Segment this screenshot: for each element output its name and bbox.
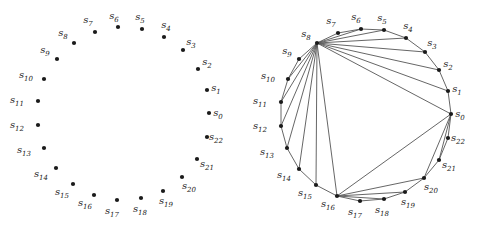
edge-s8-s13 bbox=[287, 43, 317, 148]
edge-s20-s21 bbox=[424, 160, 439, 178]
point-s4 bbox=[162, 35, 166, 39]
edge-s15-s16 bbox=[316, 185, 337, 196]
point-s8 bbox=[315, 41, 319, 45]
label-s8: s8 bbox=[301, 28, 311, 42]
edge-s7-s8 bbox=[317, 33, 338, 43]
label-s15: s15 bbox=[55, 186, 70, 200]
label-s14: s14 bbox=[277, 169, 291, 183]
point-s12 bbox=[279, 124, 283, 128]
point-s22 bbox=[446, 136, 450, 140]
edge-s8-s1 bbox=[317, 43, 448, 91]
point-s4 bbox=[404, 36, 408, 40]
edge-s5-s6 bbox=[361, 29, 384, 30]
point-s7 bbox=[93, 30, 97, 34]
point-s12 bbox=[36, 123, 40, 127]
label-s2: s2 bbox=[443, 58, 453, 72]
edge-s8-s0 bbox=[317, 43, 451, 114]
point-set-diagram: s0s1s2s3s4s5s6s7s8s9s10s11s12s13s14s15s1… bbox=[0, 0, 485, 229]
point-s2 bbox=[437, 68, 441, 72]
point-s16 bbox=[92, 193, 96, 197]
label-s1: s1 bbox=[452, 83, 462, 97]
point-s3 bbox=[181, 48, 185, 52]
point-s9 bbox=[297, 57, 301, 61]
label-s10: s10 bbox=[19, 69, 34, 83]
point-s5 bbox=[140, 27, 144, 31]
edge-s8-s2 bbox=[317, 43, 439, 70]
label-s19: s19 bbox=[401, 196, 416, 210]
point-s10 bbox=[286, 77, 290, 81]
point-s8 bbox=[72, 41, 76, 45]
figure-triangulation: s0s1s2s3s4s5s6s7s8s9s10s11s12s13s14s15s1… bbox=[253, 11, 466, 220]
label-s22: s22 bbox=[209, 131, 224, 145]
point-s13 bbox=[285, 146, 289, 150]
label-s6: s6 bbox=[109, 10, 119, 24]
edge-s3-s4 bbox=[406, 38, 425, 52]
point-s21 bbox=[437, 158, 441, 162]
label-s13: s13 bbox=[17, 144, 32, 158]
label-s15: s15 bbox=[298, 187, 313, 201]
label-s7: s7 bbox=[326, 15, 336, 29]
point-s18 bbox=[382, 197, 386, 201]
label-s6: s6 bbox=[351, 11, 361, 25]
point-s5 bbox=[382, 28, 386, 32]
point-s14 bbox=[54, 166, 58, 170]
point-s20 bbox=[180, 175, 184, 179]
label-s14: s14 bbox=[34, 168, 48, 182]
label-s11: s11 bbox=[10, 94, 24, 108]
edge-s0-s1 bbox=[448, 91, 451, 114]
edge-s12-s13 bbox=[281, 126, 287, 148]
label-s10: s10 bbox=[261, 70, 276, 84]
label-s16: s16 bbox=[78, 197, 93, 211]
point-s20 bbox=[422, 176, 426, 180]
edge-s14-s15 bbox=[299, 169, 316, 185]
label-s3: s3 bbox=[186, 36, 196, 50]
point-s16 bbox=[335, 194, 339, 198]
label-s20: s20 bbox=[424, 181, 439, 195]
point-s2 bbox=[196, 67, 200, 71]
label-s18: s18 bbox=[375, 204, 390, 218]
point-s9 bbox=[55, 57, 59, 61]
edge-s10-s11 bbox=[281, 79, 288, 102]
point-s6 bbox=[359, 27, 363, 31]
label-s8: s8 bbox=[58, 27, 68, 41]
point-s11 bbox=[279, 100, 283, 104]
point-s10 bbox=[42, 77, 46, 81]
point-s18 bbox=[139, 196, 143, 200]
label-s1: s1 bbox=[211, 82, 221, 96]
point-s14 bbox=[297, 167, 301, 171]
label-s3: s3 bbox=[427, 37, 437, 51]
point-s21 bbox=[195, 157, 199, 161]
figure-points-only: s0s1s2s3s4s5s6s7s8s9s10s11s12s13s14s15s1… bbox=[10, 10, 224, 219]
point-s17 bbox=[358, 199, 362, 203]
label-s18: s18 bbox=[133, 203, 148, 217]
point-s0 bbox=[207, 111, 211, 115]
label-s19: s19 bbox=[159, 195, 174, 209]
label-s17: s17 bbox=[105, 205, 120, 219]
label-s21: s21 bbox=[200, 158, 214, 172]
label-s12: s12 bbox=[253, 120, 268, 134]
label-s0: s0 bbox=[213, 107, 223, 121]
edge-s8-s3 bbox=[317, 43, 425, 52]
label-s5: s5 bbox=[135, 11, 145, 25]
point-s19 bbox=[403, 190, 407, 194]
point-s1 bbox=[205, 88, 209, 92]
point-s17 bbox=[115, 198, 119, 202]
label-s20: s20 bbox=[182, 180, 197, 194]
point-s7 bbox=[336, 31, 340, 35]
label-s0: s0 bbox=[455, 108, 465, 122]
label-s12: s12 bbox=[10, 119, 25, 133]
edge-s13-s14 bbox=[287, 148, 299, 169]
label-s5: s5 bbox=[377, 12, 387, 26]
point-s6 bbox=[116, 25, 120, 29]
label-s9: s9 bbox=[40, 44, 50, 58]
label-s17: s17 bbox=[348, 206, 363, 220]
label-s16: s16 bbox=[321, 198, 336, 212]
point-s3 bbox=[423, 50, 427, 54]
point-s11 bbox=[36, 99, 40, 103]
label-s7: s7 bbox=[83, 14, 93, 28]
point-s15 bbox=[314, 183, 318, 187]
label-s4: s4 bbox=[161, 19, 171, 33]
edge-s8-s16 bbox=[317, 43, 337, 196]
point-s13 bbox=[42, 146, 46, 150]
label-s11: s11 bbox=[253, 95, 267, 109]
